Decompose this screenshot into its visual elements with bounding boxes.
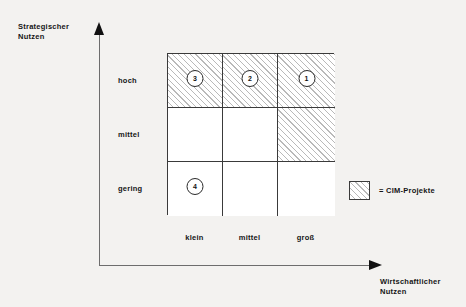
legend-hatch-swatch-icon [349, 181, 370, 200]
project-marker-4[interactable]: 4 [187, 178, 204, 195]
y-axis-line [99, 33, 100, 266]
project-marker-2[interactable]: 2 [242, 70, 259, 87]
x-axis-title: Wirtschaftlicher Nutzen [380, 277, 441, 296]
x-tick-label-klein: klein [167, 233, 222, 242]
diagram-canvas: Strategischer Nutzen Wirtschaftlicher Nu… [0, 0, 466, 307]
portfolio-matrix: 3 2 1 4 [167, 53, 334, 215]
x-tick-label-gross: groß [277, 233, 334, 242]
matrix-cell-gering-mittel[interactable] [223, 162, 278, 216]
matrix-cell-hoch-mittel[interactable]: 2 [223, 54, 278, 108]
matrix-cell-gering-klein[interactable]: 4 [168, 162, 223, 216]
matrix-cell-hoch-klein[interactable]: 3 [168, 54, 223, 108]
matrix-cell-mittel-klein[interactable] [168, 108, 223, 162]
y-tick-label-gering: gering [118, 184, 162, 193]
y-tick-label-hoch: hoch [118, 76, 162, 85]
x-axis-line [99, 265, 371, 266]
legend: = CIM-Projekte [349, 181, 435, 200]
y-tick-label-mittel: mittel [118, 130, 162, 139]
project-marker-1[interactable]: 1 [298, 70, 315, 87]
matrix-cell-mittel-mittel[interactable] [223, 108, 278, 162]
matrix-cell-mittel-gross[interactable] [278, 108, 335, 162]
x-axis-arrow-icon [369, 260, 382, 270]
matrix-cell-hoch-gross[interactable]: 1 [278, 54, 335, 108]
y-axis-arrow-icon [94, 22, 104, 35]
legend-label: = CIM-Projekte [379, 186, 435, 195]
y-axis-title: Strategischer Nutzen [18, 22, 69, 41]
matrix-cell-gering-gross[interactable] [278, 162, 335, 216]
project-marker-3[interactable]: 3 [187, 70, 204, 87]
x-tick-label-mittel: mittel [222, 233, 277, 242]
